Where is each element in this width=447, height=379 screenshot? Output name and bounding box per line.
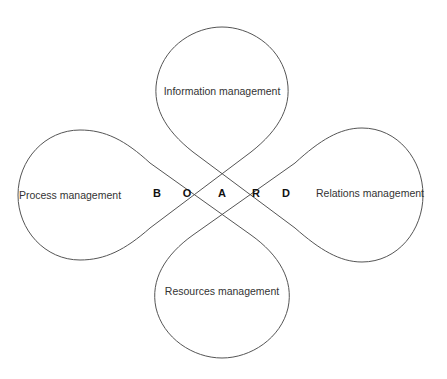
letter-a: A	[218, 187, 226, 199]
letter-r: R	[252, 187, 260, 199]
link-line-top-to-left	[150, 152, 251, 228]
link-line-right-to-bottom	[193, 163, 295, 235]
lobe-label-resources: Resources management	[165, 285, 279, 297]
link-line-top-to-right	[193, 152, 295, 228]
lobe-label-process: Process management	[19, 189, 121, 201]
lobe-label-relations: Relations management	[316, 187, 424, 199]
link-line-left-to-bottom	[150, 163, 251, 235]
lobe-label-information: Information management	[164, 85, 281, 97]
letter-o: O	[183, 187, 192, 199]
letter-d: D	[282, 187, 290, 199]
board-management-diagram: Information management Process managemen…	[0, 0, 447, 379]
letter-b: B	[153, 187, 161, 199]
